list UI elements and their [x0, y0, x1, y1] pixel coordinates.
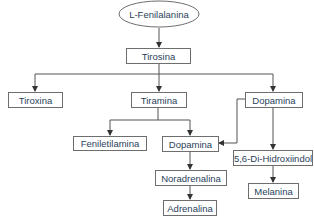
- node-noradrenalina: Noradrenalina: [156, 171, 227, 186]
- node-dihidroxiindol: 5,6-Di-Hidroxiindol: [234, 151, 313, 166]
- node-feniletilamina: Feniletilamina: [74, 137, 147, 151]
- edge-dopamina-dopamina: [219, 99, 245, 143]
- node-label: Feniletilamina: [81, 138, 140, 149]
- node-tirosina: Tirosina: [127, 49, 191, 64]
- node-label: 5,6-Di-Hidroxiindol: [234, 153, 312, 164]
- node-label: Dopamina: [252, 95, 296, 106]
- pathway-diagram: L-Fenilalanina Tirosina Tiroxina Tiramin…: [0, 0, 314, 222]
- node-label: Dopamina: [169, 139, 213, 150]
- node-tiramina: Tiramina: [132, 93, 187, 108]
- node-label: Noradrenalina: [161, 173, 221, 184]
- node-label: Tiroxina: [19, 95, 53, 106]
- node-dopamina-right: Dopamina: [246, 93, 303, 108]
- node-l-fenilalanina: L-Fenilalanina: [119, 1, 199, 27]
- node-tiroxina: Tiroxina: [9, 93, 63, 108]
- node-label: Tirosina: [142, 51, 176, 62]
- node-label: Tiramina: [141, 95, 178, 106]
- node-melanina: Melanina: [249, 184, 299, 199]
- node-adrenalina: Adrenalina: [164, 201, 217, 216]
- node-label: L-Fenilalanina: [129, 9, 189, 20]
- node-label: Melanina: [254, 186, 293, 197]
- node-label: Adrenalina: [167, 203, 213, 214]
- node-dopamina-mid: Dopamina: [163, 137, 219, 152]
